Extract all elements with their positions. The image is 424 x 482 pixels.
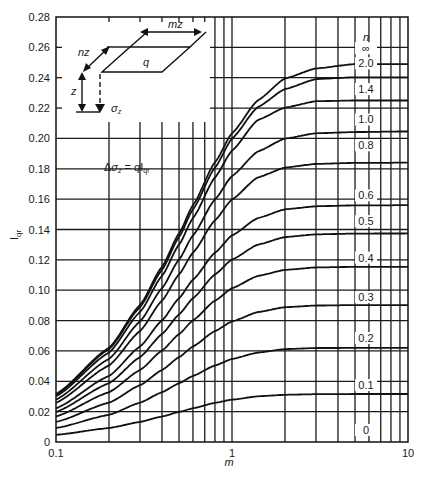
y-tick-label: 0.16	[29, 193, 50, 205]
legend-title-n: n	[363, 31, 369, 43]
curve-label-n: 0.8	[358, 139, 373, 151]
curve-label-n: 0.2	[358, 332, 373, 344]
curve-label-n: 0.6	[358, 189, 373, 201]
x-tick-label: 0.1	[48, 447, 63, 459]
curve-label-n: 0.1	[358, 379, 373, 391]
y-tick-label: 0.22	[29, 102, 50, 114]
inset-label-sigma-z: σz	[111, 102, 122, 115]
inset-label-nz: nz	[78, 46, 90, 58]
curve-label-n: 0	[363, 424, 369, 436]
y-tick-label: 0.02	[29, 406, 50, 418]
y-tick-label: 0.24	[29, 72, 50, 84]
equation-label: Δσz = qIqr	[104, 161, 150, 175]
y-tick-label: 0.10	[29, 284, 50, 296]
inset-label-z: z	[70, 85, 77, 97]
curve-label-n: 1.0	[358, 113, 373, 125]
y-axis-label: Iqr	[8, 230, 23, 241]
curve-label-n: 0.4	[358, 252, 373, 264]
y-tick-label: 0.14	[29, 224, 50, 236]
svg-text:Iqr: Iqr	[8, 230, 23, 241]
y-axis-ticks: 00.020.040.060.080.100.120.140.160.180.2…	[29, 11, 50, 448]
curve-label-n: 1.4	[358, 83, 373, 95]
curve-label-n: 0.5	[358, 215, 373, 227]
y-tick-label: 0.08	[29, 315, 50, 327]
x-axis-label: m	[224, 456, 233, 468]
y-tick-label: 0.18	[29, 163, 50, 175]
y-tick-label: 0.20	[29, 132, 50, 144]
curve-label-n: 0.3	[358, 291, 373, 303]
y-tick-label: 0.26	[29, 41, 50, 53]
curve-label-n: ∞	[362, 42, 370, 54]
loaded-area-diagram	[76, 28, 206, 113]
gridlines	[56, 17, 408, 442]
y-tick-label: 0.04	[29, 375, 50, 387]
x-tick-label: 10	[402, 447, 414, 459]
y-tick-label: 0.28	[29, 11, 50, 23]
influence-factor-chart: ∞2.01.41.00.80.60.50.40.30.20.10 00.020.…	[0, 0, 424, 482]
curve-label-n: 2.0	[358, 57, 373, 69]
y-tick-label: 0.12	[29, 254, 50, 266]
inset-label-mz: mz	[168, 18, 183, 30]
inset-label-q: q	[143, 56, 150, 68]
y-tick-label: 0.06	[29, 345, 50, 357]
